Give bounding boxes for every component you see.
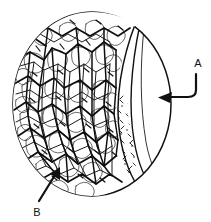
label-a-text: A [194,57,202,69]
label-b-text: B [33,206,41,218]
label-a-leader [168,74,196,97]
trabecular-mass-region [0,0,211,222]
figure-root: A B [0,0,211,222]
micrograph-figure: A B [0,0,211,222]
